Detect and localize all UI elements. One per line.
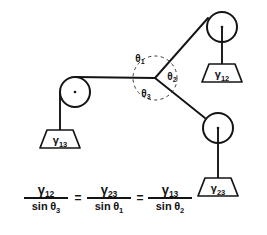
- rope-group: [75, 18, 208, 118]
- angle-label-theta2: θ2: [167, 71, 176, 83]
- rope-junction-to-top-pulley: [155, 18, 208, 78]
- equation-operator-0: =: [74, 191, 81, 205]
- pulley-left: [60, 77, 90, 107]
- weight-group: γ13 γ12 γ23: [40, 27, 242, 197]
- angle-label-theta3: θ3: [141, 88, 150, 100]
- weight-gamma-23-assembly: γ23: [198, 128, 238, 197]
- pulley-left-axle-dot: [74, 91, 77, 94]
- angle-label-theta1: θ1: [135, 53, 144, 65]
- equation-term-2-denominator: sinθ2: [156, 200, 185, 215]
- theta2-subscript: 2: [173, 76, 177, 83]
- theta1-subscript: 1: [141, 58, 145, 65]
- rope-junction-to-left-pulley: [75, 77, 155, 78]
- equation-term-0-denominator-subscript: 3: [56, 206, 60, 215]
- weight-gamma-12-subscript: 12: [221, 74, 229, 83]
- rope-junction-to-bottom-pulley: [155, 78, 205, 118]
- lami-equation: γ12 sinθ3 = γ23 sinθ1 = γ13 sinθ2: [24, 182, 192, 215]
- weight-gamma-12-assembly: γ12: [202, 27, 242, 83]
- equation-term-0-denominator: sinθ3: [32, 200, 61, 215]
- equation-term-2-denominator-text: sin: [156, 200, 172, 212]
- equation-term-0-denominator-text: sin: [32, 200, 48, 212]
- equation-term-1-numerator: γ23: [101, 182, 118, 199]
- figure-canvas: γ13 γ12 γ23 θ1: [0, 0, 267, 235]
- theta3-subscript: 3: [147, 93, 151, 100]
- equation-term-0-numerator: γ12: [38, 182, 55, 199]
- pulley-force-diagram: γ13 γ12 γ23 θ1: [0, 0, 267, 235]
- equation-term-1-denominator: sinθ1: [95, 200, 124, 215]
- weight-gamma-13-subscript: 13: [59, 140, 67, 149]
- equation-term-2-numerator: γ13: [162, 182, 179, 199]
- equation-term-1-denominator-text: sin: [95, 200, 111, 212]
- equation-term-1-denominator-subscript: 1: [119, 206, 123, 215]
- equation-operator-1: =: [136, 191, 143, 205]
- equation-term-2-denominator-subscript: 2: [180, 206, 184, 215]
- weight-gamma-23-subscript: 23: [217, 188, 225, 197]
